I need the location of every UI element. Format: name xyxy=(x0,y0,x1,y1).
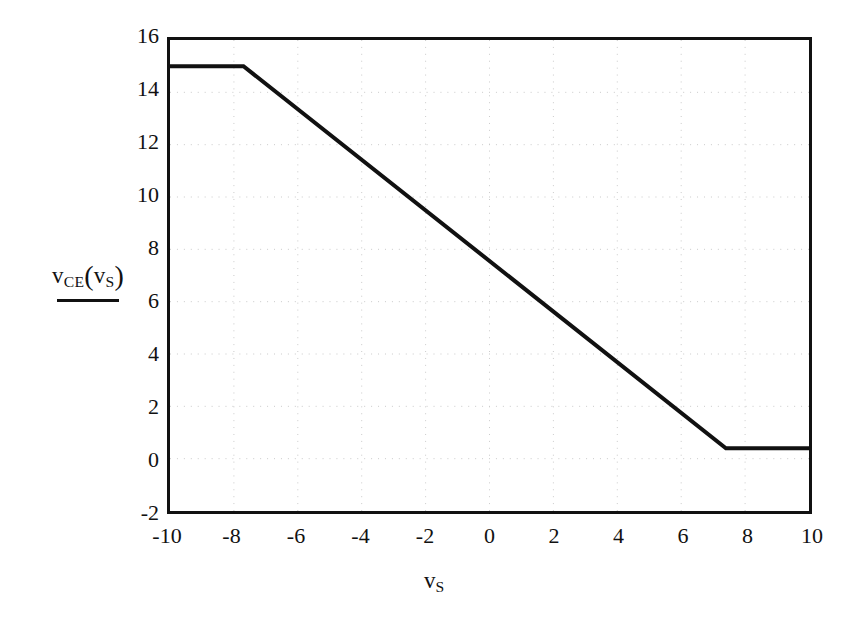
y-axis-legend-base: v xyxy=(52,263,64,288)
y-axis-legend-arg-base: v xyxy=(94,263,106,288)
plot-area xyxy=(167,37,812,514)
y-axis-tick-label: 12 xyxy=(107,129,159,155)
x-axis-tick-label: 6 xyxy=(653,523,713,549)
chart-figure: vCE(vS) -20246810121416 -10-8-6-4-202468… xyxy=(0,0,868,623)
y-axis-tick-label: 14 xyxy=(107,76,159,102)
x-axis-tick-label: -2 xyxy=(395,523,455,549)
x-axis-title-subscript: S xyxy=(435,578,444,595)
y-axis-legend-open-paren: ( xyxy=(84,260,94,291)
x-axis-tick-label: 0 xyxy=(460,523,520,549)
y-axis-tick-label: 16 xyxy=(107,23,159,49)
y-axis-tick-label: 6 xyxy=(107,288,159,314)
x-axis-tick-label: 8 xyxy=(718,523,778,549)
y-axis-legend-close-paren: ) xyxy=(114,260,124,291)
y-axis-legend-subscript: CE xyxy=(64,273,85,290)
y-axis-tick-label: 0 xyxy=(107,447,159,473)
x-axis-title-base: v xyxy=(424,568,436,593)
y-axis-tick-label: 8 xyxy=(107,235,159,261)
x-axis-tick-label: 2 xyxy=(524,523,584,549)
y-axis-tick-label: 4 xyxy=(107,341,159,367)
plot-canvas xyxy=(170,40,809,511)
x-axis-tick-label: -6 xyxy=(266,523,326,549)
y-axis-legend-expression: vCE(vS) xyxy=(28,262,148,290)
y-axis-tick-label: 2 xyxy=(107,394,159,420)
x-axis-tick-label: -10 xyxy=(137,523,197,549)
x-axis-tick-label: 10 xyxy=(782,523,842,549)
x-axis-tick-label: -4 xyxy=(331,523,391,549)
x-axis-tick-label: 4 xyxy=(589,523,649,549)
x-axis-title: vS xyxy=(0,568,868,596)
y-axis-tick-label: 10 xyxy=(107,182,159,208)
x-axis-tick-label: -8 xyxy=(202,523,262,549)
